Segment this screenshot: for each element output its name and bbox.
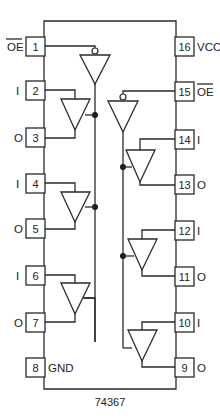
svg-text:O: O: [14, 132, 23, 144]
svg-text:9: 9: [181, 362, 187, 374]
pin-1-label: OE: [7, 41, 24, 53]
svg-text:6: 6: [32, 270, 38, 282]
svg-text:OE: OE: [197, 86, 214, 98]
svg-text:10: 10: [178, 317, 190, 329]
svg-text:15: 15: [178, 86, 190, 98]
buffer-pin4-pin5: [45, 183, 95, 229]
svg-text:16: 16: [178, 41, 190, 53]
svg-text:I: I: [197, 317, 200, 329]
svg-text:O: O: [197, 271, 206, 283]
pin-7: 7 O: [14, 313, 45, 332]
svg-text:4: 4: [32, 178, 38, 190]
buffer-pin10-pin9: [128, 322, 175, 367]
pin-12: 12 I: [175, 221, 200, 240]
svg-text:14: 14: [178, 134, 190, 146]
svg-text:5: 5: [32, 223, 38, 235]
svg-text:O: O: [197, 179, 206, 191]
svg-text:O: O: [14, 317, 23, 329]
svg-text:I: I: [197, 134, 200, 146]
pin-2: 2 I: [16, 81, 45, 100]
buffer-pin2-pin3: [45, 90, 95, 138]
pin-4: 4 I: [16, 174, 45, 193]
svg-text:I: I: [16, 178, 19, 190]
pin-15: 15 OE: [175, 82, 214, 101]
svg-text:7: 7: [32, 317, 38, 329]
svg-text:11: 11: [179, 271, 190, 283]
package-outline: [44, 21, 176, 389]
svg-text:I: I: [197, 225, 200, 237]
ic-pinout-diagram: 1 OE 2 I 3 O 4 I 5 O 6 I 7 O 8 GND 16: [0, 0, 220, 419]
svg-text:13: 13: [178, 179, 190, 191]
svg-text:O: O: [197, 362, 206, 374]
svg-text:I: I: [16, 85, 19, 97]
svg-text:2: 2: [32, 85, 38, 97]
svg-text:1: 1: [32, 41, 38, 53]
buffer-pin6-pin7: [45, 275, 95, 322]
pin-3: 3 O: [14, 128, 45, 147]
svg-text:O: O: [14, 223, 23, 235]
buffer-pin12-pin11: [123, 230, 175, 276]
pin-10: 10 I: [175, 313, 200, 332]
svg-text:8: 8: [32, 362, 38, 374]
pin-9: 9 O: [175, 358, 206, 377]
svg-text:VCC: VCC: [197, 41, 220, 53]
pin-16: 16 VCC: [175, 37, 220, 56]
pin-11: 11 O: [175, 267, 206, 286]
enable-buffer-right: [108, 91, 175, 348]
pin-6: 6 I: [16, 266, 45, 285]
pin-13: 13 O: [175, 175, 206, 194]
pin-1: 1 OE: [6, 37, 45, 56]
svg-text:12: 12: [178, 225, 190, 237]
svg-text:I: I: [16, 270, 19, 282]
svg-text:3: 3: [32, 132, 38, 144]
svg-text:GND: GND: [48, 362, 74, 374]
chip-label: 74367: [95, 396, 126, 408]
pin-5: 5 O: [14, 219, 45, 238]
pin-14: 14 I: [175, 130, 200, 149]
pin-8: 8 GND: [26, 358, 74, 377]
buffer-pin14-pin13: [123, 139, 175, 185]
